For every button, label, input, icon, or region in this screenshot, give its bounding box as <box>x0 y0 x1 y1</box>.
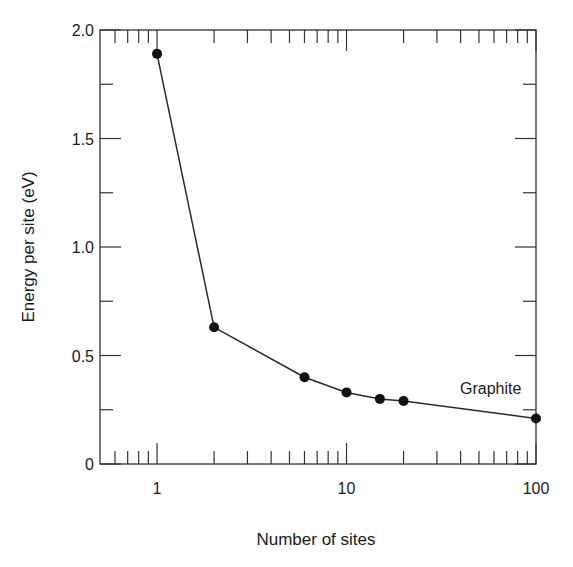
x-tick-label: 100 <box>523 480 550 497</box>
data-point <box>375 394 385 404</box>
y-tick-label: 0 <box>85 456 94 473</box>
y-tick-label: 0.5 <box>72 348 94 365</box>
data-point <box>342 387 352 397</box>
y-tick-label: 2.0 <box>72 22 94 39</box>
data-point <box>152 49 162 59</box>
annotations: Graphite <box>460 380 521 397</box>
data-point <box>531 413 541 423</box>
annotation-graphite: Graphite <box>460 380 521 397</box>
data-point <box>299 372 309 382</box>
x-tick-label: 1 <box>153 480 162 497</box>
data-series <box>152 49 541 424</box>
tick-labels: 11010000.51.01.52.0 <box>72 22 550 497</box>
x-axis-label: Number of sites <box>256 530 375 549</box>
data-point <box>399 396 409 406</box>
data-point <box>209 322 219 332</box>
y-axis-label: Energy per site (eV) <box>19 171 38 322</box>
chart: 11010000.51.01.52.0 Graphite Number of s… <box>0 0 573 567</box>
series-line <box>157 54 536 419</box>
y-tick-label: 1.5 <box>72 131 94 148</box>
y-tick-label: 1.0 <box>72 239 94 256</box>
x-tick-label: 10 <box>338 480 356 497</box>
